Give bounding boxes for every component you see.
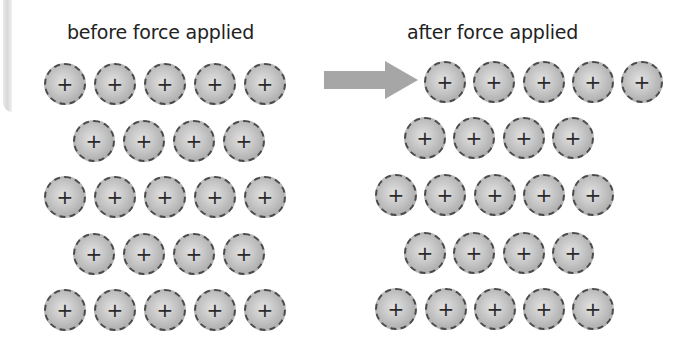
- positive-ion-icon: +: [73, 120, 115, 162]
- positive-ion-icon: +: [144, 176, 186, 218]
- positive-ion-icon: +: [44, 176, 86, 218]
- positive-ion-icon: +: [375, 288, 417, 330]
- positive-ion-icon: +: [424, 174, 466, 216]
- positive-ion-icon: +: [474, 174, 516, 216]
- positive-ion-icon: +: [73, 233, 115, 275]
- positive-ion-icon: +: [94, 63, 136, 105]
- positive-ion-icon: +: [144, 63, 186, 105]
- right-arrow-icon: [324, 61, 418, 99]
- positive-ion-icon: +: [523, 288, 565, 330]
- positive-ion-icon: +: [173, 120, 215, 162]
- positive-ion-icon: +: [94, 176, 136, 218]
- positive-ion-icon: +: [425, 288, 467, 330]
- positive-ion-icon: +: [572, 174, 614, 216]
- positive-ion-icon: +: [123, 120, 165, 162]
- positive-ion-icon: +: [244, 289, 286, 331]
- positive-ion-icon: +: [194, 176, 236, 218]
- after-force-label: after force applied: [407, 21, 578, 43]
- positive-ion-icon: +: [44, 63, 86, 105]
- positive-ion-icon: +: [123, 233, 165, 275]
- positive-ion-icon: +: [223, 120, 265, 162]
- positive-ion-icon: +: [375, 174, 417, 216]
- positive-ion-icon: +: [173, 233, 215, 275]
- positive-ion-icon: +: [453, 232, 495, 274]
- positive-ion-icon: +: [424, 61, 466, 103]
- positive-ion-icon: +: [194, 289, 236, 331]
- positive-ion-icon: +: [503, 232, 545, 274]
- positive-ion-icon: +: [404, 117, 446, 159]
- positive-ion-icon: +: [44, 289, 86, 331]
- positive-ion-icon: +: [94, 289, 136, 331]
- before-force-label: before force applied: [67, 21, 254, 43]
- positive-ion-icon: +: [552, 117, 594, 159]
- positive-ion-icon: +: [523, 174, 565, 216]
- positive-ion-icon: +: [223, 233, 265, 275]
- positive-ion-icon: +: [453, 117, 495, 159]
- positive-ion-icon: +: [523, 61, 565, 103]
- positive-ion-icon: +: [552, 232, 594, 274]
- positive-ion-icon: +: [244, 176, 286, 218]
- positive-ion-icon: +: [404, 232, 446, 274]
- positive-ion-icon: +: [474, 288, 516, 330]
- positive-ion-icon: +: [144, 289, 186, 331]
- page-edge-shadow: [3, 0, 12, 112]
- positive-ion-icon: +: [244, 63, 286, 105]
- positive-ion-icon: +: [621, 61, 663, 103]
- positive-ion-icon: +: [194, 63, 236, 105]
- positive-ion-icon: +: [503, 117, 545, 159]
- positive-ion-icon: +: [473, 61, 515, 103]
- positive-ion-icon: +: [572, 61, 614, 103]
- positive-ion-icon: +: [572, 288, 614, 330]
